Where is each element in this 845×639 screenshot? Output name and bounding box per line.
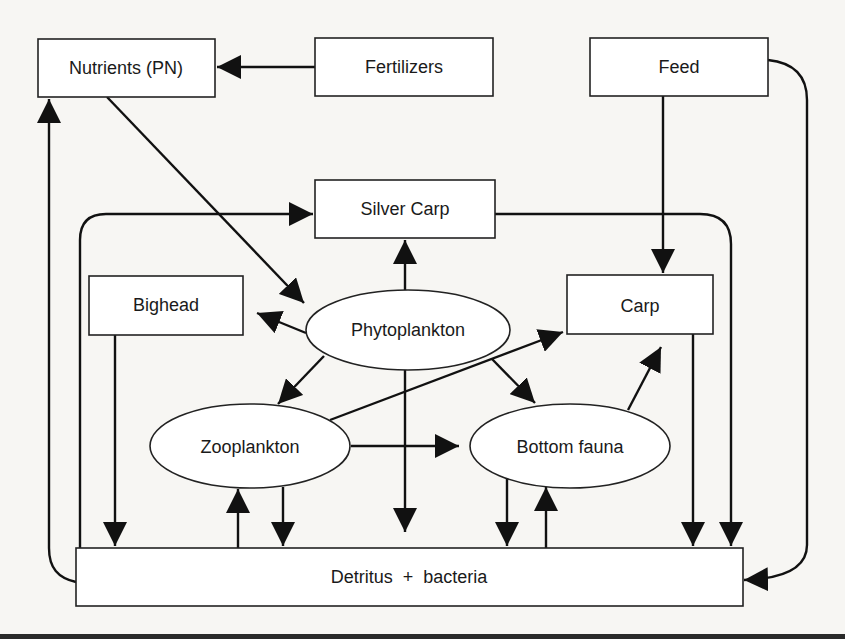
node-fertilizers-label: Fertilizers bbox=[365, 57, 443, 77]
node-bighead: Bighead bbox=[89, 276, 243, 335]
node-bighead-label: Bighead bbox=[133, 295, 199, 315]
node-bottom-fauna-label: Bottom fauna bbox=[516, 437, 624, 457]
node-feed-label: Feed bbox=[658, 57, 699, 77]
edge-feed-to-detritus bbox=[744, 60, 807, 580]
edge-bottomfauna-to-carp bbox=[628, 347, 661, 410]
edge-detritus-to-nutrients bbox=[49, 99, 76, 582]
node-carp-label: Carp bbox=[620, 296, 659, 316]
edge-nutrients-to-phytoplankton bbox=[107, 97, 304, 303]
node-nutrients-label: Nutrients (PN) bbox=[69, 58, 183, 78]
node-fertilizers: Fertilizers bbox=[315, 38, 493, 96]
node-bottom-fauna: Bottom fauna bbox=[470, 404, 670, 488]
node-nutrients: Nutrients (PN) bbox=[38, 39, 215, 97]
page-bottom-rule bbox=[0, 634, 845, 639]
edge-phytoplankton-to-bighead bbox=[257, 313, 306, 333]
node-phytoplankton: Phytoplankton bbox=[306, 290, 510, 370]
node-zooplankton-label: Zooplankton bbox=[200, 437, 299, 457]
edge-phytoplankton-to-bottomfauna bbox=[492, 359, 535, 403]
edge-silvercarp-to-detritus bbox=[495, 214, 731, 546]
node-silver-carp-label: Silver Carp bbox=[360, 199, 449, 219]
node-detritus-label: Detritus + bacteria bbox=[331, 567, 489, 587]
node-carp: Carp bbox=[567, 275, 713, 334]
node-phytoplankton-label: Phytoplankton bbox=[351, 320, 465, 340]
node-zooplankton: Zooplankton bbox=[150, 404, 350, 488]
edge-phytoplankton-to-zooplankton bbox=[278, 356, 324, 404]
node-silver-carp: Silver Carp bbox=[315, 180, 495, 238]
node-feed: Feed bbox=[590, 38, 768, 96]
food-web-diagram: Nutrients (PN) Fertilizers Feed Silver C… bbox=[0, 0, 845, 639]
node-detritus-bacteria: Detritus + bacteria bbox=[76, 548, 743, 606]
